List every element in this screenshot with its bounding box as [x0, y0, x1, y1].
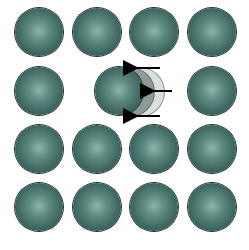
- motion-arrows: [0, 0, 249, 250]
